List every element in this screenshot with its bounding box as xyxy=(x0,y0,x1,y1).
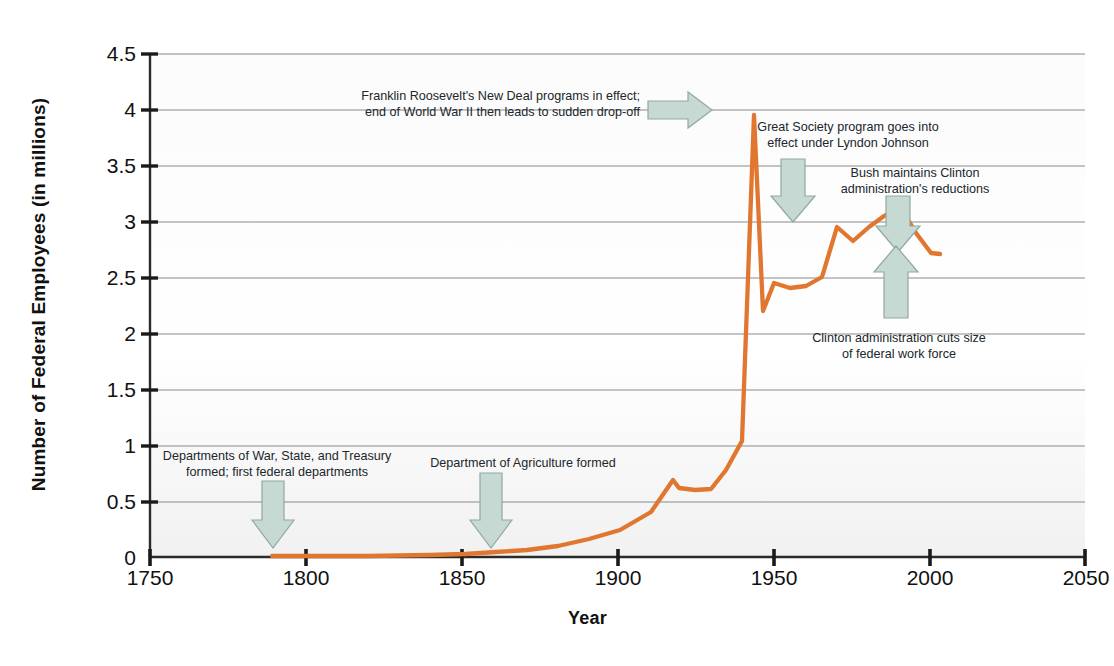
annotation-great-society: Great Society program goes into effect u… xyxy=(718,120,978,151)
annotation-agriculture: Department of Agriculture formed xyxy=(398,456,648,472)
annotation-new-deal: Franklin Roosevelt's New Deal programs i… xyxy=(300,89,640,120)
annotation-clinton-cuts: Clinton administration cuts size of fede… xyxy=(780,331,1018,362)
annotation-bush-reductions: Bush maintains Clinton administration's … xyxy=(806,166,1024,197)
annotation-first-departments: Departments of War, State, and Treasury … xyxy=(148,449,406,480)
